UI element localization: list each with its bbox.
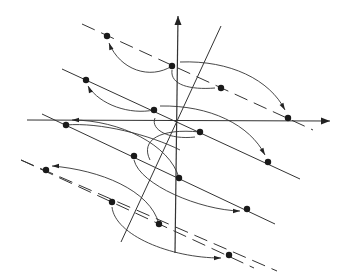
y-axis-arrow-icon xyxy=(175,16,182,25)
trajectory-curve xyxy=(72,120,179,178)
trajectory-curves xyxy=(52,43,285,260)
trajectory-arrow-icon xyxy=(233,209,240,213)
orbit-point xyxy=(109,199,115,205)
orbit-point xyxy=(156,221,162,227)
orbit-point xyxy=(176,175,182,181)
trajectory-curve xyxy=(109,43,172,72)
orbit-point xyxy=(63,122,69,128)
orbit-point xyxy=(265,159,271,165)
orbit-point xyxy=(104,33,110,39)
trajectory-arrow-icon xyxy=(280,103,285,110)
orbit-point xyxy=(83,77,89,83)
orbit-point xyxy=(43,167,49,173)
orbit-point xyxy=(285,115,291,121)
trajectory-arrow-icon xyxy=(260,148,265,155)
trajectory-arrow-icon xyxy=(214,256,221,260)
trajectory-arrow-icon xyxy=(109,43,113,50)
trajectory-arrow-icon xyxy=(52,164,59,168)
orbit-point xyxy=(218,85,224,91)
y-axis xyxy=(175,16,178,253)
orbit-point xyxy=(226,252,232,258)
orbit-point xyxy=(151,107,157,113)
trajectory-curve xyxy=(134,160,240,211)
trajectory-curve xyxy=(112,207,221,258)
orbit-point xyxy=(197,129,203,135)
parallel-lines xyxy=(21,24,313,271)
orbit-points xyxy=(43,33,291,258)
trajectory-curve xyxy=(66,125,180,150)
orbit-point xyxy=(131,153,137,159)
phase-portrait-diagram xyxy=(0,0,347,280)
trajectory-curve xyxy=(180,62,285,110)
trajectory-arrow-icon xyxy=(72,118,79,122)
orbit-point xyxy=(244,206,250,212)
coordinate-axes xyxy=(27,16,330,253)
x-axis-arrow-icon xyxy=(321,118,330,125)
parallel-line xyxy=(21,160,254,268)
parallel-line xyxy=(21,160,277,271)
orbit-point xyxy=(169,63,175,69)
